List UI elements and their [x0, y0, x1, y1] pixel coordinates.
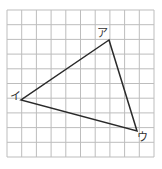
vertex-label-a: ア — [97, 28, 108, 39]
square-grid — [7, 10, 154, 157]
vertex-label-i: イ — [10, 91, 21, 102]
vertex-label-u: ウ — [137, 132, 148, 143]
